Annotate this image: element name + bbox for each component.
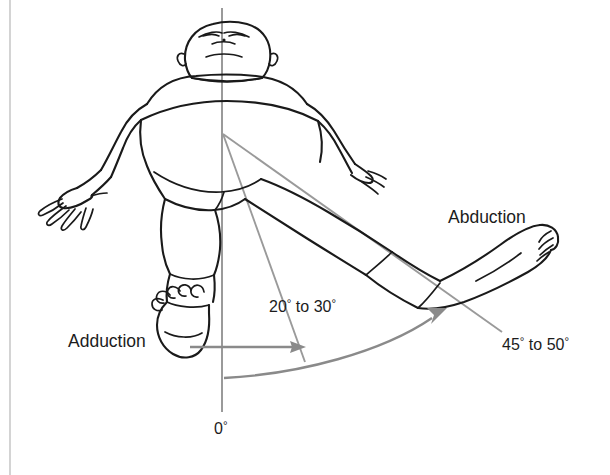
angle-label-twenty-to-thirty: 20° to 30° (269, 298, 336, 315)
leg-left-thigh-inner (214, 210, 220, 275)
abduction-sweep-arrow (224, 308, 447, 378)
arm-left-forearm-inner (92, 177, 111, 195)
foot-left-sole (157, 302, 209, 357)
hand-right-palm (351, 164, 373, 183)
hand-left-palm (58, 188, 92, 208)
jaw-line (192, 78, 262, 82)
arm-left-upper-inner (111, 120, 141, 177)
eye-left (203, 35, 219, 37)
toe-left-5-great (191, 285, 204, 297)
arm-right-upper-inner (318, 121, 352, 173)
leg-left-thigh-outer (161, 199, 170, 274)
leg-right-knee (366, 252, 392, 275)
eye-right (229, 35, 245, 37)
zero-degree-label: 0° (214, 420, 228, 437)
twenty-to-thirty-degree-guide (223, 134, 305, 362)
leg-right-ankle (418, 283, 440, 308)
degree-symbol-icon: ° (223, 419, 228, 431)
figure-illustration (0, 0, 610, 475)
arm-left-forearm-outer (77, 170, 101, 188)
leg-right-calf-outer (366, 275, 418, 308)
torso-right-side (318, 121, 322, 162)
shoulder-top-line (147, 75, 307, 105)
adduction-label: Adduction (68, 333, 146, 351)
leg-right-thigh-outer (245, 199, 366, 275)
head-outline (185, 22, 270, 81)
abdomen-lower-contour (165, 199, 245, 210)
leg-left-ankle (167, 302, 209, 307)
pelvic-crease (154, 172, 261, 192)
angle-label-fortyfive-to-fifty: 45° to 50° (502, 336, 569, 353)
hip-range-of-motion-figure: Abduction Adduction 20° to 30° 45° to 50… (0, 0, 610, 475)
foot-left-heel-crease (165, 332, 202, 337)
leg-left-calf-inner (213, 275, 215, 302)
adduction-direction-arrow (190, 341, 306, 353)
leg-left-knee (170, 274, 214, 279)
chest-band-line (141, 101, 318, 121)
finger-left-4 (81, 208, 93, 230)
leg-right-calf-inner (392, 252, 440, 281)
nose-line (212, 42, 235, 44)
nose-dot (222, 38, 225, 41)
degree-symbol-icon: ° (331, 297, 336, 309)
mouth-line (206, 54, 242, 57)
torso-left-side (140, 120, 165, 199)
degree-symbol-icon: ° (564, 335, 569, 347)
finger-left-3 (61, 209, 81, 230)
abduction-label: Abduction (448, 209, 526, 227)
